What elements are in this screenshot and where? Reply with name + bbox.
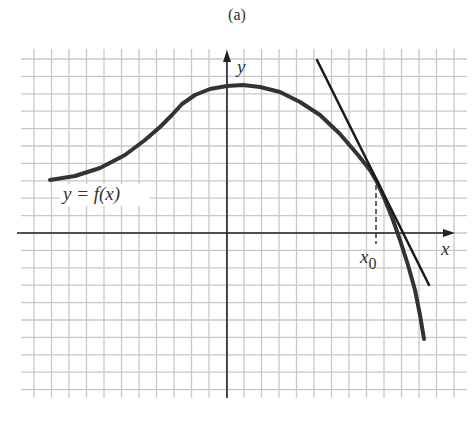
x-axis-arrow-icon (443, 229, 455, 237)
x0-label-subscript: 0 (368, 255, 376, 272)
function-curve (50, 85, 424, 339)
y-axis-arrow-icon (223, 50, 231, 62)
graph-grid (21, 49, 467, 398)
function-label: y = f(x) (61, 183, 120, 205)
x-axis-label: x (440, 238, 450, 259)
y-axis-label: y (235, 56, 246, 77)
axes (17, 50, 455, 398)
function-graph: y x y = f(x) x0 (0, 0, 474, 421)
